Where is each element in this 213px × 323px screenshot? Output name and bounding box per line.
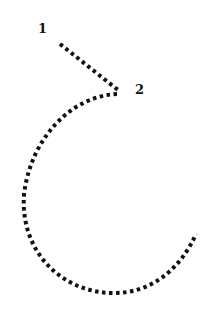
point-label-1: 1	[38, 22, 47, 35]
point-label-2: 2	[135, 83, 144, 96]
dotted-arc-segment	[24, 94, 196, 293]
dotted-path-diagram	[0, 0, 213, 323]
dotted-line-segment-1-2	[60, 44, 118, 90]
